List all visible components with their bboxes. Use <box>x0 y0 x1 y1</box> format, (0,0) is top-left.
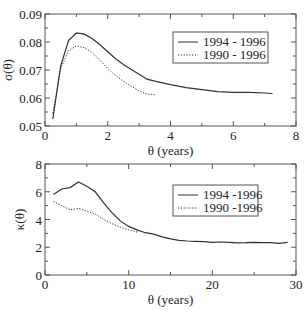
chart-canvas: 024680.050.060.070.080.09θ (years)σ(θ)19… <box>0 0 306 313</box>
series-line-dotted <box>53 202 137 233</box>
y-axis-label: σ(θ) <box>0 59 15 81</box>
x-axis-label: θ (years) <box>148 143 194 158</box>
sigma-panel: 024680.050.060.070.080.09θ (years)σ(θ)19… <box>0 7 299 158</box>
x-tick-label: 0 <box>42 277 49 292</box>
figure: 024680.050.060.070.080.09θ (years)σ(θ)19… <box>0 0 306 313</box>
y-tick-label: 2 <box>36 240 43 255</box>
y-tick-label: 6 <box>36 185 43 200</box>
y-tick-label: 0 <box>36 268 43 283</box>
x-tick-label: 10 <box>122 277 135 292</box>
y-tick-label: 0.07 <box>19 63 42 78</box>
y-tick-label: 0.06 <box>19 91 42 106</box>
legend-label: 1990 -1996 <box>203 200 263 215</box>
y-tick-label: 0.05 <box>19 119 42 134</box>
y-tick-label: 0.09 <box>19 7 42 22</box>
y-tick-label: 8 <box>36 157 43 172</box>
plot-frame <box>45 164 296 275</box>
x-tick-label: 8 <box>293 128 300 143</box>
x-tick-label: 4 <box>167 128 174 143</box>
x-tick-label: 6 <box>230 128 237 143</box>
y-tick-label: 0.08 <box>19 35 42 50</box>
x-tick-label: 30 <box>290 277 303 292</box>
x-tick-label: 20 <box>206 277 219 292</box>
legend-label: 1990 - 1996 <box>203 47 266 62</box>
y-tick-label: 4 <box>36 213 43 228</box>
x-tick-label: 0 <box>42 128 49 143</box>
y-axis-label: κ(θ) <box>12 209 27 230</box>
x-axis-label: θ (years) <box>148 292 194 307</box>
plot-frame <box>45 14 296 126</box>
kappa-panel: 010203002468θ (years)κ(θ)1994 -19961990 … <box>12 157 303 307</box>
x-tick-label: 2 <box>105 128 112 143</box>
series-line-dotted <box>53 46 155 114</box>
